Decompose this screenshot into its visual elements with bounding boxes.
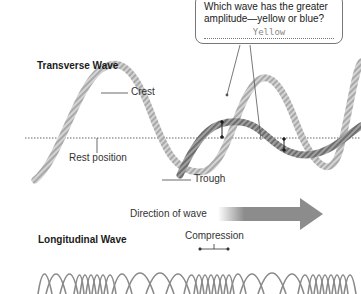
transverse-wave-title: Transverse Wave (37, 60, 118, 71)
diagram-graphics (0, 0, 361, 294)
compression-label: Compression (185, 230, 244, 241)
longitudinal-spring (38, 273, 356, 294)
question-text: Which wave has the greater amplitude—yel… (204, 1, 334, 25)
direction-of-wave-label: Direction of wave (130, 208, 207, 219)
trough-label: Trough (194, 173, 225, 184)
direction-arrow-shape (218, 198, 323, 230)
amplitude-arrow-right (283, 138, 286, 152)
crest-label: Crest (131, 86, 155, 97)
answer-text: Yellow (204, 27, 334, 39)
question-callout: Which wave has the greater amplitude—yel… (195, 0, 343, 44)
longitudinal-wave-title: Longitudinal Wave (38, 234, 127, 245)
rest-position-label: Rest position (69, 152, 127, 163)
amplitude-arrow-left (221, 121, 224, 139)
leader-line-1 (227, 45, 240, 95)
compression-bracket (199, 244, 229, 250)
